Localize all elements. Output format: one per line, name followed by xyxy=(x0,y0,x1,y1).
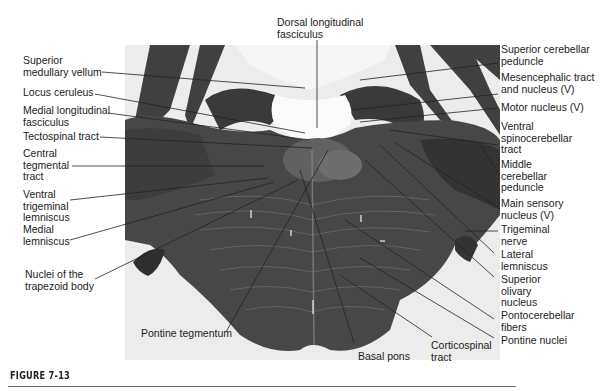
label-pontine-nuclei: Pontine nuclei xyxy=(501,335,567,347)
label-superior-cerebellar-peduncle: Superior cerebellar peduncle xyxy=(501,44,590,67)
label-superior-olivary-nucleus: Superior olivary nucleus xyxy=(501,274,541,309)
label-trigeminal-nerve: Trigeminal nerve xyxy=(501,224,550,247)
label-main-sensory-nucleus: Main sensory nucleus (V) xyxy=(501,198,563,221)
label-basal-pons: Basal pons xyxy=(358,351,410,363)
label-lateral-lemniscus: Lateral lemniscus xyxy=(501,249,548,272)
pons-section-figure: Dorsal longitudinal fasciculus Superior … xyxy=(0,0,612,391)
label-ventral-trigeminal-lemniscus: Ventral trigeminal lemniscus xyxy=(23,189,70,224)
label-superior-medullary-vellum: Superior medullary vellum xyxy=(23,55,102,78)
label-motor-nucleus: Motor nucleus (V) xyxy=(501,102,584,114)
caption-divider xyxy=(8,386,516,387)
label-medial-longitudinal-fasciculus: Medial longitudinal fasciculus xyxy=(23,105,110,128)
label-central-tegmental-tract: Central tegmental tract xyxy=(23,148,69,183)
figure-caption: FIGURE 7-13 xyxy=(10,370,70,381)
label-nuclei-of-trapezoid-body: Nuclei of the trapezoid body xyxy=(25,269,94,292)
photo-frame xyxy=(125,45,500,360)
label-pontine-tegmentum: Pontine tegmentum xyxy=(141,328,232,340)
label-locus-ceruleus: Locus ceruleus xyxy=(23,87,94,99)
label-tectospinal-tract: Tectospinal tract xyxy=(23,131,99,143)
label-corticospinal-tract: Corticospinal tract xyxy=(431,340,492,363)
label-ventral-spinocerebellar-tract: Ventral spinocerebellar tract xyxy=(501,121,572,156)
label-dorsal-longitudinal-fasciculus: Dorsal longitudinal fasciculus xyxy=(277,17,363,40)
label-mesencephalic-tract-nucleus: Mesencephalic tract and nucleus (V) xyxy=(501,72,594,95)
label-medial-lemniscus: Medial lemniscus xyxy=(23,224,70,247)
label-pontocerebellar-fibers: Pontocerebellar fibers xyxy=(501,310,575,333)
label-middle-cerebellar-peduncle: Middle cerebellar peduncle xyxy=(501,159,547,194)
